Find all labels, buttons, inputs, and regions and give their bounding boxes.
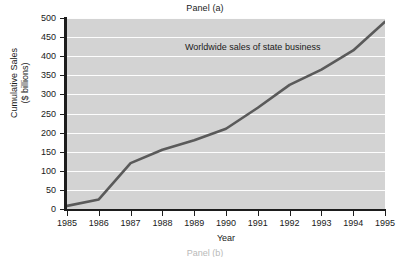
y-axis-title: Cumulative Sales ($ billions) bbox=[9, 28, 31, 138]
x-axis-tick bbox=[385, 210, 386, 216]
x-axis-tick bbox=[99, 210, 100, 216]
y-axis-tick bbox=[60, 56, 65, 57]
y-axis-tick bbox=[60, 18, 65, 19]
series-annotation: Worldwide sales of state business bbox=[185, 42, 320, 52]
y-axis-tick bbox=[60, 171, 65, 172]
chart-figure: Panel (a) Worldwide sales of state busin… bbox=[0, 0, 410, 257]
y-axis-tick-label: 0 bbox=[22, 205, 56, 214]
y-axis-tick-label: 500 bbox=[22, 14, 56, 23]
y-axis-tick-label: 250 bbox=[22, 110, 56, 119]
panel-title: Panel (a) bbox=[0, 3, 410, 13]
x-axis-tick bbox=[226, 210, 227, 216]
x-axis-tick-label: 1992 bbox=[273, 218, 307, 228]
x-axis-tick bbox=[162, 210, 163, 216]
next-panel-title: Panel (b) bbox=[0, 248, 410, 257]
y-axis-tick bbox=[60, 114, 65, 115]
y-axis-tick bbox=[60, 94, 65, 95]
x-axis-line bbox=[64, 209, 386, 211]
y-axis-tick-label: 100 bbox=[22, 167, 56, 176]
y-axis-tick-label: 450 bbox=[22, 33, 56, 42]
x-axis-title: Year bbox=[67, 233, 385, 243]
y-axis-tick-label: 200 bbox=[22, 129, 56, 138]
y-axis-tick-label: 150 bbox=[22, 148, 56, 157]
x-axis-tick bbox=[67, 210, 68, 216]
y-axis-tick bbox=[60, 209, 65, 210]
x-axis-tick-label: 1985 bbox=[50, 218, 84, 228]
x-axis-tick bbox=[321, 210, 322, 216]
x-axis-tick-label: 1989 bbox=[177, 218, 211, 228]
x-axis-tick bbox=[194, 210, 195, 216]
x-axis-tick bbox=[290, 210, 291, 216]
x-axis-tick-label: 1993 bbox=[304, 218, 338, 228]
x-axis-tick-label: 1986 bbox=[82, 218, 116, 228]
y-axis-title-line1: Cumulative Sales bbox=[9, 48, 19, 118]
x-axis-tick-label: 1995 bbox=[368, 218, 402, 228]
y-axis-tick bbox=[60, 152, 65, 153]
x-axis-tick bbox=[131, 210, 132, 216]
y-axis-tick-label: 400 bbox=[22, 52, 56, 61]
x-axis-tick-label: 1990 bbox=[209, 218, 243, 228]
x-axis-tick-label: 1987 bbox=[114, 218, 148, 228]
y-axis-tick-label: 50 bbox=[22, 186, 56, 195]
y-axis-tick-label: 300 bbox=[22, 90, 56, 99]
x-axis-tick-label: 1991 bbox=[241, 218, 275, 228]
x-axis-tick bbox=[258, 210, 259, 216]
y-axis-tick bbox=[60, 37, 65, 38]
y-axis-tick-label: 350 bbox=[22, 71, 56, 80]
y-axis-tick bbox=[60, 133, 65, 134]
x-axis-tick bbox=[353, 210, 354, 216]
y-axis-tick bbox=[60, 75, 65, 76]
x-axis-tick-label: 1994 bbox=[336, 218, 370, 228]
y-axis-tick bbox=[60, 190, 65, 191]
x-axis-tick-label: 1988 bbox=[145, 218, 179, 228]
